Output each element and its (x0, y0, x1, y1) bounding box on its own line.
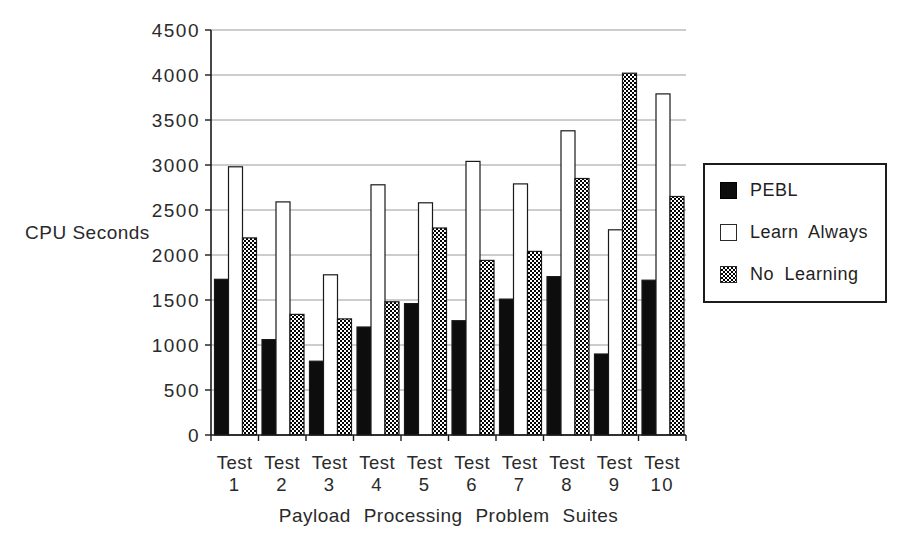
x-label-number-9: 9 (609, 474, 621, 495)
x-label-number-2: 2 (276, 474, 288, 495)
bar-no-learning-test-8 (575, 179, 589, 436)
y-tick-label-500: 500 (164, 380, 200, 401)
bar-no-learning-test-9 (623, 73, 637, 435)
bar-learn-always-test-10 (656, 94, 670, 435)
bar-pebl-test-8 (547, 277, 561, 435)
x-label-prefix-5: Test (407, 452, 443, 473)
bar-no-learning-test-2 (290, 314, 304, 435)
bar-pebl-test-6 (452, 321, 466, 435)
no-learning-swatch-icon (720, 266, 737, 283)
bar-no-learning-test-4 (385, 302, 399, 435)
pebl-swatch-icon (720, 182, 737, 199)
bar-learn-always-test-8 (561, 131, 575, 435)
legend-label-no-learning: No Learning (750, 264, 859, 285)
y-tick-label-2000: 2000 (152, 245, 200, 266)
y-tick-label-1500: 1500 (152, 290, 200, 311)
x-label-prefix-4: Test (359, 452, 395, 473)
bar-learn-always-test-1 (229, 167, 243, 435)
bar-learn-always-test-3 (324, 275, 338, 435)
bar-pebl-test-1 (215, 279, 229, 435)
bar-no-learning-test-1 (243, 238, 257, 435)
x-label-prefix-1: Test (217, 452, 253, 473)
x-label-number-7: 7 (514, 474, 526, 495)
y-tick-label-3000: 3000 (152, 155, 200, 176)
x-label-prefix-3: Test (312, 452, 348, 473)
y-tick-label-3500: 3500 (152, 110, 200, 131)
legend: PEBL Learn Always No Learning (703, 163, 887, 303)
legend-item-no-learning: No Learning (720, 253, 885, 295)
x-label-prefix-7: Test (502, 452, 538, 473)
learn-always-swatch-icon (720, 224, 737, 241)
bar-no-learning-test-5 (433, 228, 447, 435)
bar-pebl-test-10 (642, 280, 656, 435)
legend-item-learn-always: Learn Always (720, 211, 885, 253)
bar-pebl-test-5 (405, 304, 419, 435)
legend-label-pebl: PEBL (750, 180, 798, 201)
x-label-number-1: 1 (229, 474, 241, 495)
bar-pebl-test-7 (500, 299, 514, 435)
bar-learn-always-test-4 (371, 185, 385, 435)
y-tick-label-4000: 4000 (152, 65, 200, 86)
y-tick-label-1000: 1000 (152, 335, 200, 356)
x-label-number-5: 5 (419, 474, 431, 495)
x-label-number-4: 4 (371, 474, 383, 495)
bar-learn-always-test-5 (419, 203, 433, 435)
y-tick-label-4500: 4500 (152, 20, 200, 41)
bar-no-learning-test-10 (670, 197, 684, 436)
legend-label-learn-always: Learn Always (750, 222, 868, 243)
y-axis-title: CPU Seconds (25, 222, 150, 244)
bar-learn-always-test-6 (466, 161, 480, 435)
bar-no-learning-test-7 (528, 251, 542, 435)
x-label-prefix-2: Test (264, 452, 300, 473)
bar-learn-always-test-7 (514, 184, 528, 435)
bars-group (215, 73, 685, 435)
bar-learn-always-test-2 (276, 202, 290, 435)
bar-learn-always-test-9 (609, 230, 623, 435)
bar-pebl-test-2 (262, 340, 276, 435)
x-axis-title: Payload Processing Problem Suites (211, 505, 686, 527)
legend-item-pebl: PEBL (720, 169, 885, 211)
x-label-prefix-9: Test (597, 452, 633, 473)
chart-page: 050010001500200025003000350040004500Test… (0, 0, 900, 544)
bar-pebl-test-4 (357, 327, 371, 435)
bar-no-learning-test-3 (338, 319, 352, 435)
y-tick-label-0: 0 (188, 425, 200, 446)
x-label-prefix-8: Test (549, 452, 585, 473)
x-label-prefix-10: Test (644, 452, 680, 473)
x-label-number-10: 10 (650, 474, 674, 495)
x-label-number-8: 8 (561, 474, 573, 495)
x-label-prefix-6: Test (454, 452, 490, 473)
bar-no-learning-test-6 (480, 260, 494, 435)
x-label-number-6: 6 (466, 474, 478, 495)
y-tick-label-2500: 2500 (152, 200, 200, 221)
x-label-number-3: 3 (324, 474, 336, 495)
bar-pebl-test-3 (310, 361, 324, 435)
bar-pebl-test-9 (595, 354, 609, 435)
